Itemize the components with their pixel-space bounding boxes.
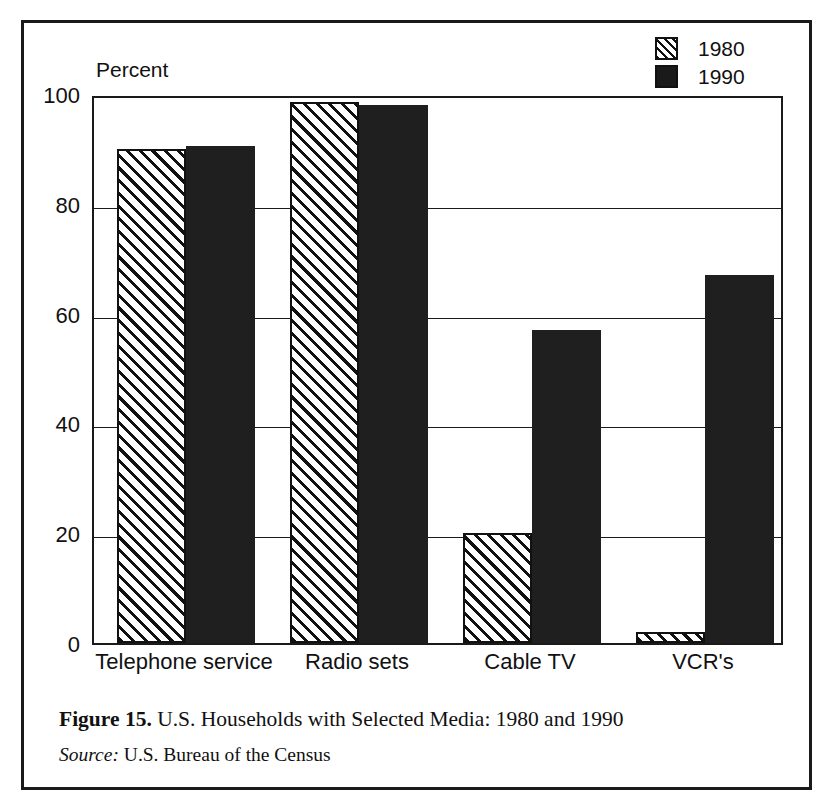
bar-telephone-service-1980 <box>117 149 186 643</box>
y-tick-100: 100 <box>43 85 80 107</box>
caption-figure-number: Figure 15. <box>59 707 152 731</box>
bar-vcrs-1990 <box>705 275 774 643</box>
x-label-radio-sets: Radio sets <box>305 651 409 673</box>
y-tick-60: 60 <box>56 305 80 327</box>
legend-entry-1990: 1990 <box>655 62 805 90</box>
x-axis-category-labels: Telephone service Radio sets Cable TV VC… <box>92 651 783 685</box>
caption-title-text: U.S. Households with Selected Media: 198… <box>157 707 623 731</box>
legend-swatch-hatched-icon <box>655 37 678 60</box>
y-tick-20: 20 <box>56 524 80 546</box>
legend-swatch-solid-icon <box>655 65 678 88</box>
x-label-cable-tv: Cable TV <box>484 651 575 673</box>
legend-label-1990: 1990 <box>698 66 745 87</box>
caption-title-line: Figure 15. U.S. Households with Selected… <box>59 705 759 734</box>
figure-container: 1980 1990 Percent 100 80 60 40 20 0 <box>0 0 829 807</box>
figure-caption: Figure 15. U.S. Households with Selected… <box>59 705 759 767</box>
caption-source-text: U.S. Bureau of the Census <box>124 744 331 765</box>
x-label-vcrs: VCR's <box>672 651 734 673</box>
bar-radio-sets-1990 <box>359 105 428 643</box>
chart-legend: 1980 1990 <box>655 34 805 90</box>
bar-vcrs-1980 <box>636 632 705 643</box>
legend-label-1980: 1980 <box>698 38 745 59</box>
y-tick-80: 80 <box>56 195 80 217</box>
caption-source-label: Source: <box>59 744 119 765</box>
plot-inner <box>94 98 781 643</box>
y-axis-tick-labels: 100 80 60 40 20 0 <box>0 96 92 645</box>
bar-telephone-service-1990 <box>186 146 255 643</box>
caption-source-line: Source: U.S. Bureau of the Census <box>59 742 759 767</box>
legend-entry-1980: 1980 <box>655 34 805 62</box>
bar-cable-tv-1980 <box>463 533 532 643</box>
x-label-telephone-service: Telephone service <box>95 651 272 673</box>
y-tick-0: 0 <box>68 634 80 656</box>
bar-cable-tv-1990 <box>532 330 601 643</box>
plot-area <box>92 96 783 645</box>
y-axis-title: Percent <box>96 59 168 80</box>
bar-radio-sets-1980 <box>290 102 359 643</box>
y-tick-40: 40 <box>56 414 80 436</box>
